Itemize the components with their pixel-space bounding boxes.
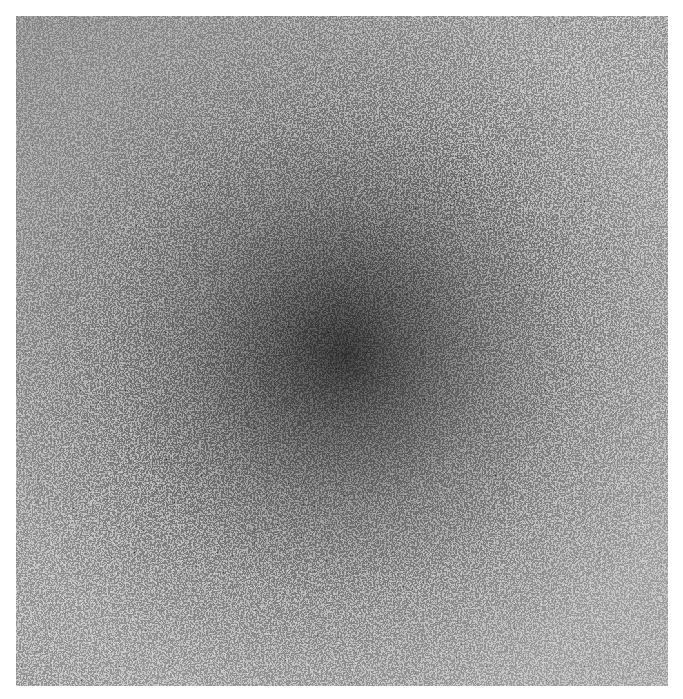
noise-texture-image	[16, 16, 668, 686]
tonal-gradient-overlay	[16, 16, 668, 686]
